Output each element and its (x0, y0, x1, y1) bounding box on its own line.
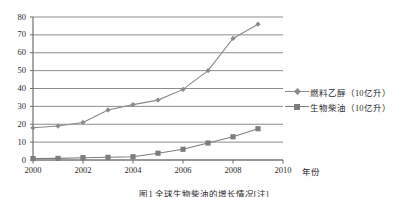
y-axis-tick-label: 40 (4, 83, 26, 93)
data-point-marker (255, 22, 260, 27)
data-point-marker (105, 155, 110, 160)
y-axis-tick-label: 80 (4, 12, 26, 22)
y-axis-tick-label: 50 (4, 65, 26, 75)
data-point-marker (80, 155, 85, 160)
legend-label: 生物柴油（10亿升） (310, 101, 391, 113)
legend-marker-icon (285, 87, 309, 97)
y-axis-tick-label: 30 (4, 101, 26, 111)
x-axis-tick-label: 2006 (166, 165, 200, 175)
data-point-marker (55, 156, 60, 161)
data-point-marker (180, 147, 185, 152)
data-point-marker (30, 125, 35, 130)
x-axis-tick-label: 2002 (66, 165, 100, 175)
y-axis-tick-label: 60 (4, 47, 26, 57)
series-line-fuel-ethanol (33, 24, 258, 128)
data-point-marker (105, 107, 110, 112)
chart-figure: 01020304050607080 2000200220042006200820… (0, 0, 408, 197)
legend-item-fuel-ethanol[interactable]: 燃料乙醇（10亿升） (285, 84, 391, 99)
y-axis-tick-label: 0 (4, 155, 26, 165)
data-point-marker (205, 140, 210, 145)
data-point-marker (30, 156, 35, 161)
y-axis-tick-label: 20 (4, 119, 26, 129)
x-axis-tick-label: 2010 (266, 165, 300, 175)
series-line-biodiesel (33, 129, 258, 159)
y-axis-tick-label: 10 (4, 137, 26, 147)
x-axis-tick-label: 2008 (216, 165, 250, 175)
x-axis-tick-label: 2004 (116, 165, 150, 175)
data-point-marker (230, 134, 235, 139)
legend-item-biodiesel[interactable]: 生物柴油（10亿升） (285, 99, 391, 114)
data-point-marker (155, 98, 160, 103)
legend-marker-icon (285, 102, 309, 112)
legend-label: 燃料乙醇（10亿升） (310, 86, 391, 98)
x-axis-unit-label: 年份 (302, 165, 320, 177)
y-axis-tick-label: 70 (4, 29, 26, 39)
data-point-marker (130, 154, 135, 159)
x-axis-tick-label: 2000 (16, 165, 50, 175)
data-point-marker (255, 126, 260, 131)
data-point-marker (155, 151, 160, 156)
chart-legend: 燃料乙醇（10亿升）生物柴油（10亿升） (285, 84, 391, 114)
figure-caption: 图1 全球生物柴油的增长情况[注] (0, 187, 408, 197)
